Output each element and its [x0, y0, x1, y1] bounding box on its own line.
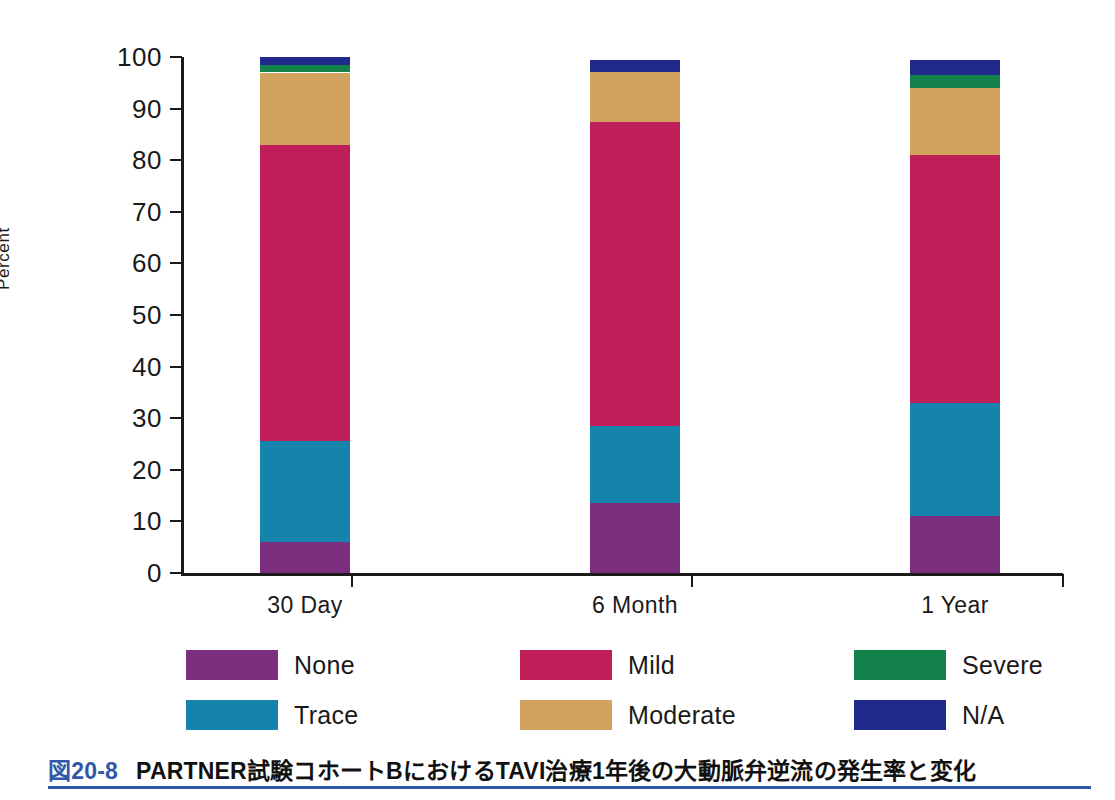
bar-segment-trace	[260, 441, 350, 542]
legend-swatch-icon	[520, 650, 612, 680]
legend-swatch-icon	[520, 700, 612, 730]
bar-segment-none	[590, 503, 680, 573]
bar-segment-n-a	[260, 57, 350, 65]
bar-1-year[interactable]	[910, 57, 1000, 573]
bar-segment-none	[260, 542, 350, 573]
bar-segment-moderate	[260, 73, 350, 145]
legend-swatch-icon	[186, 700, 278, 730]
y-tick-label: 60	[100, 250, 162, 276]
figure-number: 図20-8	[48, 752, 118, 786]
bar-6-month[interactable]	[590, 57, 680, 573]
y-tick-label: 0	[100, 560, 162, 586]
figure-container: Percent 0102030405060708090100 30 Day6 M…	[0, 0, 1115, 800]
bar-segment-mild	[910, 155, 1000, 403]
y-axis-tick	[170, 108, 182, 110]
chart-legend: NoneTraceMildModerateSevereN/A	[0, 648, 1115, 740]
y-axis-title: Percent	[0, 227, 14, 290]
bar-segment-mild	[590, 122, 680, 426]
x-tick-label: 1 Year	[845, 592, 1065, 618]
x-tick-label: 6 Month	[525, 592, 745, 618]
y-axis-tick	[170, 159, 182, 161]
y-tick-label: 20	[100, 457, 162, 483]
y-axis-tick	[170, 262, 182, 264]
bar-segment-mild	[260, 145, 350, 442]
bar-segment-n-a	[910, 60, 1000, 75]
y-tick-label: 100	[100, 44, 162, 70]
legend-label: N/A	[962, 698, 1005, 732]
y-axis-tick	[170, 572, 182, 574]
bar-30-day[interactable]	[260, 57, 350, 573]
x-axis-line	[181, 573, 1063, 576]
y-tick-label: 90	[100, 96, 162, 122]
y-axis-tick	[170, 366, 182, 368]
legend-label: Moderate	[628, 698, 736, 732]
legend-swatch-icon	[186, 650, 278, 680]
legend-label: Trace	[294, 698, 358, 732]
legend-swatch-icon	[854, 700, 946, 730]
y-tick-label: 30	[100, 405, 162, 431]
x-axis-tick	[1062, 574, 1064, 587]
y-axis-tick	[170, 520, 182, 522]
bar-segment-severe	[910, 75, 1000, 88]
bar-segment-moderate	[910, 88, 1000, 155]
plot-area	[182, 57, 1062, 573]
y-tick-label: 50	[100, 302, 162, 328]
y-tick-label: 70	[100, 199, 162, 225]
y-axis-tick	[170, 469, 182, 471]
x-axis-tick	[351, 574, 353, 587]
bar-segment-none	[910, 516, 1000, 573]
bar-segment-trace	[910, 403, 1000, 517]
bar-segment-n-a	[590, 60, 680, 73]
y-axis-tick	[170, 56, 182, 58]
y-axis-tick	[170, 417, 182, 419]
y-tick-label: 10	[100, 508, 162, 534]
y-axis-tick	[170, 314, 182, 316]
bar-segment-trace	[590, 426, 680, 503]
x-tick-label: 30 Day	[195, 592, 415, 618]
figure-caption-text: PARTNER試験コホートBにおけるTAVI治療1年後の大動脈弁逆流の発生率と変…	[136, 752, 976, 786]
y-tick-label: 80	[100, 147, 162, 173]
y-axis-tick	[170, 211, 182, 213]
x-axis-tick	[691, 574, 693, 587]
legend-label: Severe	[962, 648, 1043, 682]
caption-rule	[48, 786, 1091, 789]
legend-label: Mild	[628, 648, 675, 682]
legend-swatch-icon	[854, 650, 946, 680]
bar-segment-moderate	[590, 72, 680, 121]
bar-segment-severe	[260, 65, 350, 73]
legend-label: None	[294, 648, 355, 682]
y-tick-label: 40	[100, 354, 162, 380]
